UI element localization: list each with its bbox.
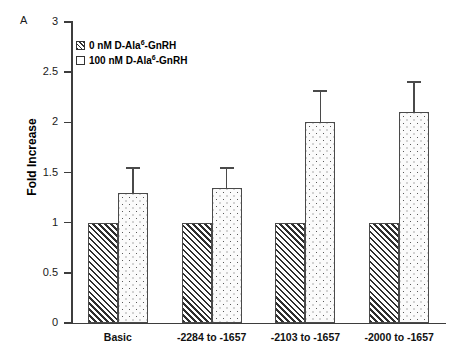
legend-label-1: 100 nM D-Ala6-GnRH [89,55,187,66]
legend-item-1: 100 nM D-Ala6-GnRH [76,54,187,66]
figure-panel-a: A Fold Increase 00.511.522.53 Basic-2284… [0,0,454,359]
x-category-label-0: Basic [71,331,165,343]
error-bar-stem-2-1 [320,90,321,122]
bar-1-0 [182,223,212,323]
error-bar-cap-3-1 [407,81,421,82]
error-bar-cap-2-1 [313,90,327,91]
y-axis-title: Fold Increase [25,82,39,232]
bar-2-0 [275,223,305,323]
y-tick-label-0.5: 0.5 [18,266,58,278]
y-tick-label-1: 1 [18,216,58,228]
error-bar-stem-0-1 [132,167,133,192]
x-category-label-3: -2000 to -1657 [352,331,446,343]
y-tick-label-2: 2 [18,115,58,127]
y-tick-1 [64,222,71,224]
error-bar-stem-3-1 [413,81,414,112]
y-tick-0.5 [64,272,71,274]
y-tick-3 [64,21,71,23]
legend-swatch-dots-icon [76,56,85,65]
y-tick-label-0: 0 [18,316,58,328]
bar-1-1 [212,188,242,323]
y-tick-2 [64,122,71,124]
bar-2-1 [305,122,335,323]
error-bar-cap-0-1 [126,167,140,168]
y-tick-2.5 [64,71,71,73]
bar-0-1 [118,193,148,323]
y-tick-1.5 [64,172,71,174]
y-tick-label-1.5: 1.5 [18,166,58,178]
x-category-label-1: -2284 to -1657 [165,331,259,343]
y-tick-label-2.5: 2.5 [18,65,58,77]
y-tick-0 [64,322,71,324]
error-bar-stem-1-1 [226,167,227,187]
x-category-label-2: -2103 to -1657 [259,331,353,343]
bar-3-1 [399,112,429,323]
y-tick-label-3: 3 [18,15,58,27]
legend: 0 nM D-Ala6-GnRH 100 nM D-Ala6-GnRH [76,39,187,69]
legend-swatch-hatch-icon [76,41,85,50]
legend-label-0: 0 nM D-Ala6-GnRH [89,40,176,51]
error-bar-cap-1-1 [220,167,234,168]
bar-3-0 [369,223,399,323]
bar-0-0 [88,223,118,323]
legend-item-0: 0 nM D-Ala6-GnRH [76,39,187,51]
